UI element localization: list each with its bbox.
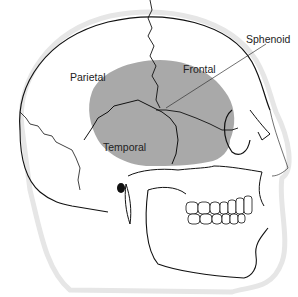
styloid-process <box>125 184 131 224</box>
label-frontal: Frontal <box>183 64 216 75</box>
zygomatic-arch <box>128 166 214 176</box>
label-temporal: Temporal <box>103 142 146 153</box>
skull-diagram: Parietal Frontal Temporal Sphenoid <box>0 0 298 297</box>
label-sphenoid: Sphenoid <box>246 34 290 45</box>
mandible-ramus <box>148 187 186 194</box>
lower-teeth <box>188 214 245 224</box>
upper-teeth <box>186 196 252 214</box>
nasal-bone <box>250 110 270 140</box>
ear-canal <box>117 183 125 193</box>
label-parietal: Parietal <box>70 72 106 83</box>
